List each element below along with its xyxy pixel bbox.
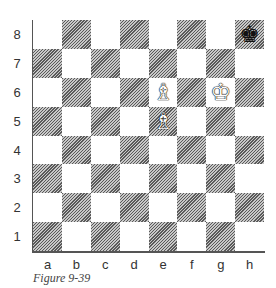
square-f6	[177, 78, 206, 107]
square-b8	[62, 20, 91, 49]
square-g5	[206, 107, 235, 136]
file-label: b	[62, 257, 91, 272]
square-a8	[33, 20, 62, 49]
square-b4	[62, 136, 91, 165]
rank-label: 7	[10, 49, 24, 78]
white-king-icon: ♔	[206, 78, 235, 107]
square-a1	[33, 222, 62, 251]
square-h8: ♚	[235, 20, 264, 49]
square-c2	[91, 193, 120, 222]
square-f5	[177, 107, 206, 136]
square-e5: ♗	[149, 107, 178, 136]
square-b3	[62, 164, 91, 193]
file-label: g	[206, 257, 235, 272]
rank-label: 3	[10, 164, 24, 193]
file-label: e	[149, 257, 178, 272]
square-h6	[235, 78, 264, 107]
square-d7	[120, 49, 149, 78]
square-g4	[206, 136, 235, 165]
square-d2	[120, 193, 149, 222]
file-label: d	[120, 257, 149, 272]
square-h4	[235, 136, 264, 165]
square-f1	[177, 222, 206, 251]
square-h7	[235, 49, 264, 78]
square-e3	[149, 164, 178, 193]
square-e2	[149, 193, 178, 222]
square-b5	[62, 107, 91, 136]
file-label: h	[235, 257, 264, 272]
square-h3	[235, 164, 264, 193]
square-c1	[91, 222, 120, 251]
black-king-icon: ♚	[235, 20, 264, 49]
square-h1	[235, 222, 264, 251]
square-g7	[206, 49, 235, 78]
square-g2	[206, 193, 235, 222]
square-a3	[33, 164, 62, 193]
square-e8	[149, 20, 178, 49]
rank-label: 8	[10, 20, 24, 49]
square-d5	[120, 107, 149, 136]
square-c4	[91, 136, 120, 165]
square-e4	[149, 136, 178, 165]
white-bishop-icon: ♗	[149, 107, 178, 136]
figure-caption: Figure 9-39	[33, 271, 90, 286]
square-a2	[33, 193, 62, 222]
square-a7	[33, 49, 62, 78]
file-label: f	[177, 257, 206, 272]
square-g8	[206, 20, 235, 49]
square-c5	[91, 107, 120, 136]
rank-label: 6	[10, 78, 24, 107]
square-c8	[91, 20, 120, 49]
file-label: c	[91, 257, 120, 272]
file-label: a	[33, 257, 62, 272]
rank-label: 5	[10, 107, 24, 136]
rank-label: 1	[10, 222, 24, 251]
square-g1	[206, 222, 235, 251]
square-h5	[235, 107, 264, 136]
square-g3	[206, 164, 235, 193]
square-f4	[177, 136, 206, 165]
white-bishop-icon: ♗	[149, 78, 178, 107]
square-d6	[120, 78, 149, 107]
square-f8	[177, 20, 206, 49]
square-h2	[235, 193, 264, 222]
square-e6: ♗	[149, 78, 178, 107]
square-f7	[177, 49, 206, 78]
rank-label: 4	[10, 136, 24, 165]
board-bottom-border	[32, 251, 265, 253]
square-b2	[62, 193, 91, 222]
square-f3	[177, 164, 206, 193]
square-d1	[120, 222, 149, 251]
square-a5	[33, 107, 62, 136]
chess-board: ♚♗♔♗	[33, 20, 264, 251]
square-g6: ♔	[206, 78, 235, 107]
square-a6	[33, 78, 62, 107]
square-e7	[149, 49, 178, 78]
square-e1	[149, 222, 178, 251]
rank-label: 2	[10, 193, 24, 222]
square-d3	[120, 164, 149, 193]
square-c7	[91, 49, 120, 78]
square-c6	[91, 78, 120, 107]
square-b1	[62, 222, 91, 251]
square-f2	[177, 193, 206, 222]
square-a4	[33, 136, 62, 165]
square-d4	[120, 136, 149, 165]
square-d8	[120, 20, 149, 49]
square-b7	[62, 49, 91, 78]
square-b6	[62, 78, 91, 107]
square-c3	[91, 164, 120, 193]
